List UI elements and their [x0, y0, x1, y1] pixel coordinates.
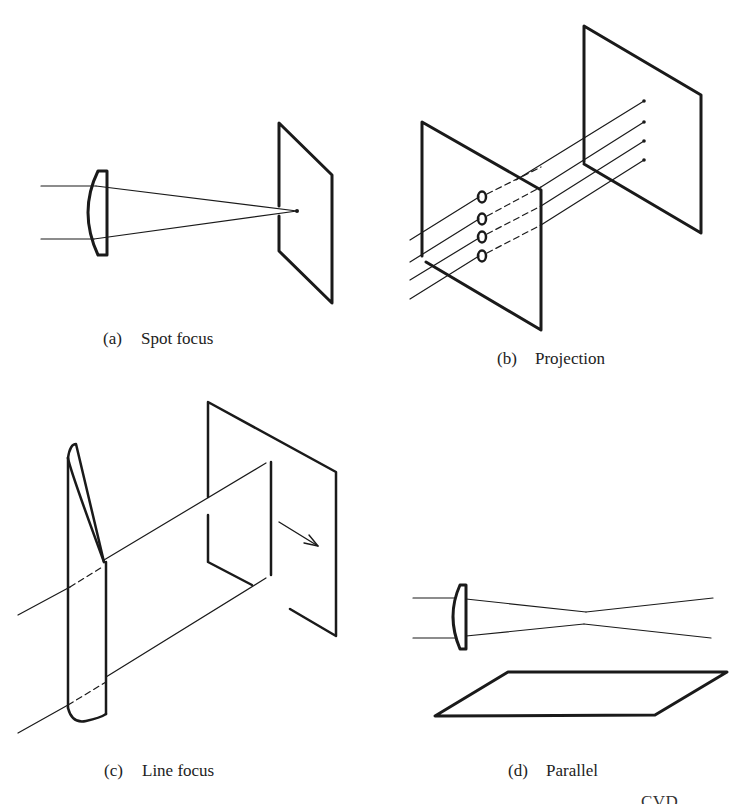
- target-plane: [584, 26, 701, 233]
- scan-direction-arrow: [279, 522, 318, 546]
- caption-d: (d)Parallel: [508, 761, 598, 781]
- panel-b-projection: [410, 26, 701, 330]
- caption-label: Spot focus: [141, 329, 213, 348]
- substrate-plane: [435, 672, 727, 716]
- caption-b: (b)Projection: [497, 349, 605, 369]
- projected-spots: [642, 99, 646, 162]
- panel-d-parallel: [413, 585, 727, 716]
- cylindrical-lens: [68, 444, 106, 721]
- optical-configurations-figure: [0, 0, 749, 806]
- converging-rays: [94, 186, 297, 239]
- caption-tag: (c): [104, 761, 142, 781]
- caption-tag: (d): [508, 761, 546, 781]
- crossing-rays: [466, 598, 713, 638]
- caption-a: (a)Spot focus: [103, 329, 213, 349]
- hidden-rays: [487, 167, 541, 253]
- caption-c: (c)Line focus: [104, 761, 214, 781]
- panel-c-line-focus: [18, 402, 336, 733]
- plano-convex-lens: [88, 171, 107, 255]
- caption-tag: (b): [497, 349, 535, 369]
- panel-a-spot-focus: [41, 123, 332, 303]
- incident-rays: [410, 197, 479, 299]
- apertures: [478, 192, 486, 262]
- plano-convex-lens: [453, 585, 466, 649]
- focal-spot: [295, 209, 299, 213]
- caption-label: Parallel: [546, 761, 598, 780]
- input-rays: [413, 598, 455, 638]
- projected-rays: [516, 101, 644, 225]
- rays: [18, 463, 266, 733]
- hidden-rays: [68, 566, 106, 705]
- target-plane: [279, 123, 332, 303]
- caption-label: Projection: [535, 349, 605, 368]
- caption-tag: (a): [103, 329, 141, 349]
- mask-plane: [422, 122, 541, 330]
- cropped-body-text: ... ... ... ... ... ... ... ... ... CVD …: [470, 792, 749, 806]
- caption-label: Line focus: [142, 761, 214, 780]
